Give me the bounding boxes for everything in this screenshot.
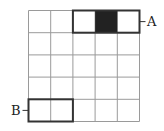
grid-lines xyxy=(29,11,140,122)
label-b: B xyxy=(11,104,21,117)
grid-diagram xyxy=(0,0,164,131)
label-a: A xyxy=(147,15,156,28)
shaded-cell xyxy=(95,11,117,33)
